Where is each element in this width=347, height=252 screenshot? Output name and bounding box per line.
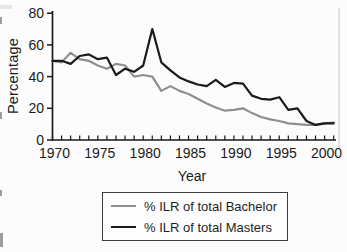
bachelor-line	[53, 53, 334, 125]
y-axis-title: Percentage	[5, 16, 21, 136]
x-tick-label: 1995	[266, 145, 297, 161]
x-tick-label: 1980	[130, 145, 161, 161]
figure: 0204060801970197519801985199019952000 Pe…	[0, 0, 347, 252]
masters-line	[53, 29, 334, 125]
legend-item-bachelor: % ILR of total Bachelor	[111, 199, 287, 214]
line-chart-plot: 0204060801970197519801985199019952000	[0, 0, 347, 190]
x-tick-label: 1970	[39, 145, 70, 161]
legend: % ILR of total Bachelor % ILR of total M…	[102, 192, 288, 241]
x-tick-label: 1990	[220, 145, 251, 161]
bachelor-line-swatch	[111, 205, 136, 207]
scan-artifact	[0, 5, 12, 9]
legend-item-masters: % ILR of total Masters	[111, 220, 287, 235]
scan-artifact	[0, 190, 2, 196]
y-tick-label: 20	[28, 100, 44, 116]
scan-artifact	[338, 8, 340, 148]
scan-artifact	[0, 233, 3, 247]
y-tick-label: 40	[28, 69, 44, 85]
y-tick-label: 60	[28, 37, 44, 53]
scan-artifact	[0, 17, 2, 24]
y-tick-label: 80	[28, 5, 44, 21]
scan-artifact	[0, 112, 2, 119]
legend-label-masters: % ILR of total Masters	[144, 220, 272, 235]
x-axis-title: Year	[152, 168, 232, 184]
x-tick-label: 1985	[175, 145, 206, 161]
masters-line-swatch	[111, 226, 136, 228]
x-tick-label: 1975	[84, 145, 115, 161]
legend-label-bachelor: % ILR of total Bachelor	[144, 199, 277, 214]
